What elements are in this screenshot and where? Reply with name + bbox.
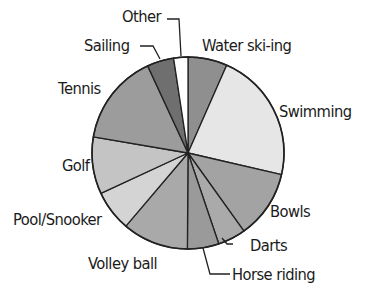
slice-label-water-ski-ing: Water ski-ing [202, 38, 291, 54]
slice-label-swimming: Swimming [279, 104, 352, 120]
leader-line [167, 19, 181, 56]
pie-chart [0, 0, 366, 292]
slice-label-other: Other [122, 9, 161, 25]
pie-slices [92, 57, 284, 249]
slice-label-pool-snooker: Pool/Snooker [13, 212, 102, 228]
slice-label-sailing: Sailing [84, 38, 129, 54]
slice-label-volley-ball: Volley ball [88, 256, 157, 272]
slice-label-darts: Darts [250, 238, 287, 254]
leader-line [140, 46, 160, 59]
slice-label-bowls: Bowls [270, 204, 310, 220]
leader-line [203, 248, 230, 274]
slice-label-tennis: Tennis [58, 81, 101, 97]
slice-label-golf: Golf [62, 158, 89, 174]
slice-label-horse-riding: Horse riding [232, 267, 315, 283]
